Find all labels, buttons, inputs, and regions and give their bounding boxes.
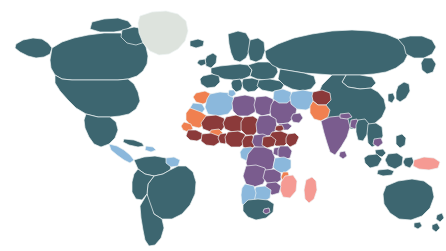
country-iceland (190, 39, 204, 48)
country-libya (232, 95, 257, 116)
country-papua-new-guinea (413, 157, 440, 170)
country-zambia (263, 169, 281, 184)
country-finland-baltics (248, 38, 265, 62)
country-iraq-syria (273, 89, 292, 103)
world-map-svg (0, 0, 446, 251)
world-choropleth-map (0, 0, 446, 251)
country-java (377, 169, 394, 176)
